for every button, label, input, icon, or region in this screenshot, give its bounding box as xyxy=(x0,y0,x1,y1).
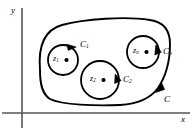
outer-contour-label: C xyxy=(164,95,170,104)
point-z1-label: z1 xyxy=(53,55,59,63)
circle-c1-label: C1 xyxy=(80,40,89,50)
point-z1-label-sub: 1 xyxy=(56,58,59,63)
point-zn-label-sub: n xyxy=(136,50,139,55)
circle-c1-label-sub: 1 xyxy=(86,43,89,49)
circle-cn xyxy=(127,36,159,68)
point-zn-dot xyxy=(144,50,148,54)
point-z2-label: z2 xyxy=(90,75,96,83)
x-axis-label: x xyxy=(181,115,185,124)
circle-c2-label-sub: 2 xyxy=(129,78,132,84)
point-zn-label: zn xyxy=(133,47,139,55)
circle-c2 xyxy=(81,61,119,99)
circle-cn-label: Cn xyxy=(163,47,172,57)
axes-group xyxy=(2,8,190,128)
point-z1-dot xyxy=(64,58,68,62)
circle-c2-label: C2 xyxy=(123,75,132,85)
point-z2-dot xyxy=(101,78,105,82)
point-z2-label-sub: 2 xyxy=(93,78,96,83)
diagram-canvas xyxy=(0,0,192,132)
y-axis-label: y xyxy=(11,6,15,15)
circle-c2-group xyxy=(81,61,121,99)
circle-cn-label-sub: n xyxy=(169,50,172,56)
contour-diagram: y x C C1 z1 C2 z2 Cn zn xyxy=(0,0,192,132)
